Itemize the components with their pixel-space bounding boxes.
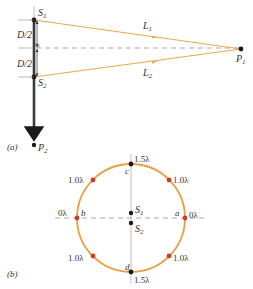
value-d: 1.5λ <box>134 275 150 285</box>
label-p1: P1 <box>235 53 246 66</box>
max-upper-left-dot <box>91 178 96 183</box>
label-s2: S2 <box>38 77 47 90</box>
part-b: c d a b S1 S2 1.5λ 1.5λ 0λ 0λ 1.0λ 1.0λ … <box>7 154 208 285</box>
label-d-half-top: D/2 <box>16 29 32 40</box>
ray-arrow-icon <box>152 61 158 64</box>
label-d-half-bottom: D/2 <box>16 58 32 69</box>
label-c: c <box>125 166 129 176</box>
value-upper-left: 1.0λ <box>68 175 84 185</box>
dimension-arrow-icon <box>36 49 39 52</box>
label-l1: L1 <box>142 20 152 33</box>
label-b: b <box>81 208 86 218</box>
path-l2 <box>34 49 241 77</box>
max-upper-right-dot <box>167 178 172 183</box>
two-source-interference-diagram: D/2 D/2 S1 S2 L1 L2 P1 P2 (a) c d a <box>0 0 253 289</box>
panel-label-b: (b) <box>7 269 18 279</box>
source-s2-dot-b <box>129 221 133 225</box>
label-l2: L2 <box>142 67 153 80</box>
label-s2-b: S2 <box>135 223 144 236</box>
point-p2-dot <box>32 143 36 147</box>
label-d: d <box>125 262 130 272</box>
value-lower-left: 1.0λ <box>68 253 84 263</box>
value-upper-right: 1.0λ <box>173 175 189 185</box>
point-p1-dot <box>239 47 244 52</box>
label-s1: S1 <box>38 7 47 20</box>
max-lower-right-dot <box>167 254 172 259</box>
dimension-arrow-icon <box>36 45 39 48</box>
panel-label-a: (a) <box>7 142 18 152</box>
point-a-dot <box>183 216 188 221</box>
part-a: D/2 D/2 S1 S2 L1 L2 P1 P2 (a) <box>7 6 246 155</box>
label-a: a <box>175 208 180 218</box>
value-a: 0λ <box>189 210 199 220</box>
label-p2: P2 <box>37 142 48 155</box>
value-c: 1.5λ <box>134 154 150 164</box>
point-c-dot <box>129 162 134 167</box>
value-lower-right: 1.0λ <box>173 253 189 263</box>
max-lower-left-dot <box>91 254 96 259</box>
source-s1-dot-b <box>129 211 133 215</box>
value-b: 0λ <box>58 208 68 218</box>
path-l1 <box>34 20 241 49</box>
label-s1-b: S1 <box>135 204 144 217</box>
point-b-dot <box>75 216 80 221</box>
